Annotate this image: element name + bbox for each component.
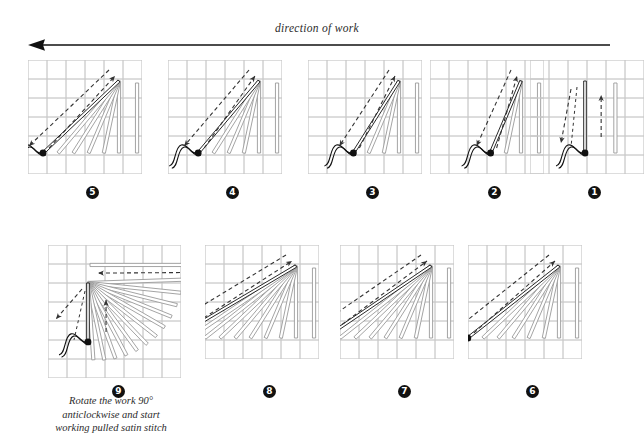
panel-1-stitches — [530, 60, 644, 174]
step-badge-2: 2 — [488, 186, 501, 199]
panel-4 — [168, 60, 282, 174]
panel-2-stitches — [430, 60, 544, 174]
panel-4-stitches — [168, 60, 282, 174]
step-badge-3: 3 — [366, 186, 379, 199]
rotate-caption: Rotate the work 90° anticlockwise and st… — [16, 394, 206, 435]
caption-line-1: Rotate the work 90° — [16, 394, 206, 408]
panel-7-stitches — [340, 245, 454, 359]
panel-9-stitches — [48, 245, 181, 378]
direction-of-work-arrow — [0, 34, 634, 56]
panel-6-stitches — [468, 245, 582, 359]
panel-9 — [48, 245, 181, 378]
panel-8-stitches — [205, 245, 319, 359]
panel-7 — [340, 245, 454, 359]
direction-of-work-label: direction of work — [0, 22, 634, 34]
panel-3-stitches — [308, 60, 422, 174]
step-badge-1: 1 — [588, 186, 601, 199]
step-badge-4: 4 — [226, 186, 239, 199]
step-badge-8: 8 — [263, 385, 276, 398]
caption-line-2: anticlockwise and start — [16, 408, 206, 422]
panel-8 — [205, 245, 319, 359]
panel-6 — [468, 245, 582, 359]
panel-3 — [308, 60, 422, 174]
panel-2 — [430, 60, 544, 174]
step-badge-6: 6 — [526, 385, 539, 398]
left-arrow-icon — [28, 39, 610, 51]
panel-5-stitches — [28, 60, 142, 174]
panel-5 — [28, 60, 142, 174]
panel-1 — [530, 60, 644, 174]
caption-line-3: working pulled satin stitch — [16, 421, 206, 435]
step-badge-5: 5 — [86, 186, 99, 199]
step-badge-7: 7 — [398, 385, 411, 398]
